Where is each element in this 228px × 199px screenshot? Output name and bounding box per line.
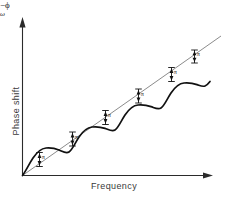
pi-marker-label: π bbox=[141, 90, 145, 97]
pi-marker-6: π bbox=[191, 50, 201, 63]
y-axis-arrowhead bbox=[19, 17, 25, 28]
pi-marker-label: π bbox=[174, 68, 178, 75]
pi-marker-3: π bbox=[102, 111, 112, 125]
phase-shift-curve bbox=[23, 82, 211, 176]
pi-marker-label: π bbox=[108, 111, 112, 118]
mean-reference-line bbox=[23, 36, 222, 176]
plot-area: π π π π bbox=[0, 0, 228, 199]
pi-marker-label: π bbox=[197, 50, 201, 57]
pi-marker-5: π bbox=[168, 68, 178, 82]
phase-shift-figure: π π π π bbox=[0, 0, 228, 199]
x-axis-label: Frequency bbox=[0, 181, 228, 191]
y-axis-label: Phase shift bbox=[11, 51, 21, 171]
pi-marker-4: π bbox=[135, 89, 145, 103]
x-axis bbox=[23, 172, 214, 178]
x-axis-arrowhead bbox=[203, 172, 213, 178]
